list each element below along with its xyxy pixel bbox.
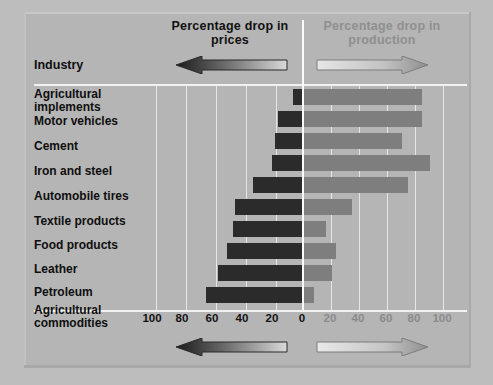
tick-label-production-20: 20	[324, 312, 337, 324]
tick-label-prices-60: 60	[206, 312, 219, 324]
bar-production-drop	[304, 177, 408, 193]
category-label: Leather	[34, 263, 77, 276]
tick-label-production-60: 60	[380, 312, 393, 324]
bar-production-drop	[304, 287, 314, 303]
plate-edge-top	[24, 12, 471, 14]
tick-label-production-100: 100	[432, 312, 451, 324]
bar-production-drop	[304, 89, 422, 105]
bar-production-drop	[304, 133, 402, 149]
bar-price-drop	[272, 155, 302, 171]
footer-arrow-group	[0, 336, 493, 364]
tick-label-prices-100: 100	[142, 312, 161, 324]
bar-production-drop	[304, 111, 422, 127]
bar-price-drop	[227, 243, 302, 259]
bar-production-drop	[304, 155, 430, 171]
legend-title-prices: Percentage drop in prices	[160, 19, 300, 47]
bar-price-drop	[275, 133, 302, 149]
category-label: Petroleum	[34, 286, 93, 299]
tick-label-prices-20: 20	[266, 312, 279, 324]
bar-price-drop	[253, 177, 303, 193]
category-label-column: Agricultural implementsMotor vehiclesCem…	[34, 86, 154, 310]
bar-production-drop	[304, 265, 332, 281]
tick-label-production-40: 40	[352, 312, 365, 324]
category-label: Agricultural implements	[34, 88, 101, 114]
arrow-right-icon-footer	[316, 338, 428, 356]
arrow-left-icon-footer	[176, 338, 288, 356]
gridline-80-left	[186, 86, 187, 310]
tick-label-production-80: 80	[408, 312, 421, 324]
bar-price-drop	[235, 199, 303, 215]
category-label: Food products	[34, 239, 118, 252]
bar-price-drop	[218, 265, 302, 281]
column-header-industry: Industry	[34, 58, 83, 72]
bar-price-drop	[206, 287, 302, 303]
bar-price-drop	[278, 111, 302, 127]
gridline-100-right	[443, 86, 444, 310]
category-label: Automobile tires	[34, 190, 129, 203]
category-label: Textile products	[34, 215, 126, 228]
category-label: Cement	[34, 140, 78, 153]
tick-label-prices-40: 40	[236, 312, 249, 324]
gridline-100-left	[156, 86, 157, 310]
category-label: Motor vehicles	[34, 115, 118, 128]
x-axis-tick-labels: 10080604020020406080100	[0, 312, 493, 330]
plate-edge-bottom	[24, 365, 471, 368]
chart-screenshot: Percentage drop in prices Percentage dro…	[0, 0, 493, 385]
bar-production-drop	[304, 243, 336, 259]
tick-label-prices-0: 0	[299, 312, 305, 324]
bar-price-drop	[293, 89, 302, 105]
gridline-60-left	[216, 86, 217, 310]
bar-price-drop	[233, 221, 302, 237]
category-label: Iron and steel	[34, 165, 112, 178]
tick-label-prices-80: 80	[176, 312, 189, 324]
bar-production-drop	[304, 199, 352, 215]
arrow-left-icon	[176, 56, 288, 74]
bar-production-drop	[304, 221, 326, 237]
arrow-right-icon	[316, 56, 428, 74]
legend-title-production: Percentage drop in production	[302, 19, 462, 47]
